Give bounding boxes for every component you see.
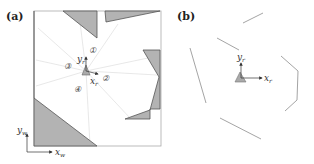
scan-segments: [190, 13, 298, 139]
panel-b-label: (b): [177, 10, 195, 23]
panel-b: (b) yr xr: [177, 10, 298, 139]
svg-text:yw: yw: [16, 125, 28, 136]
panel-a-label: (a): [6, 10, 24, 23]
figure: (a) yr xr ① ②: [0, 0, 314, 164]
region-4: ④: [74, 85, 82, 94]
svg-text:xr: xr: [264, 73, 273, 84]
region-2: ②: [102, 74, 110, 83]
svg-text:yr: yr: [236, 52, 246, 63]
panel-a: (a) yr xr ① ②: [6, 10, 161, 158]
robot-icon-b: [235, 72, 246, 82]
region-1: ①: [89, 46, 97, 55]
svg-text:xw: xw: [55, 147, 66, 158]
region-3: ③: [64, 62, 72, 71]
